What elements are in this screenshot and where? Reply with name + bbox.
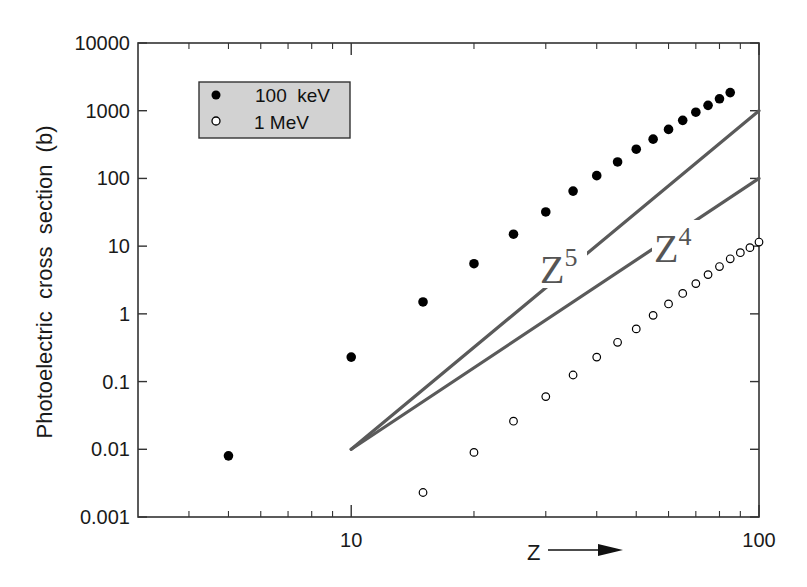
x-tick-label: 100 [742,529,775,551]
x-axis-arrow-icon [548,544,623,556]
data-point [679,290,687,298]
data-point [593,353,601,361]
x-tick-label: 10 [340,529,362,551]
legend-label-1mev: 1 MeV [254,112,309,133]
data-point [418,297,428,307]
y-tick-label: 10000 [74,32,130,54]
data-point [613,157,623,167]
x-axis-title: Z [527,540,540,565]
y-tick-label: 1 [119,303,130,325]
data-point [592,171,602,181]
data-point [346,352,356,362]
y-tick-label: 0.1 [102,371,130,393]
y-tick-label: 0.001 [80,506,130,528]
y-tick-label: 1000 [86,100,131,122]
data-point [715,94,725,104]
y-tick-label: 100 [97,167,130,189]
y-tick-label: 10 [108,235,130,257]
y-axis-title: Photoelectric cross section (b) [32,125,57,438]
data-point [469,259,479,269]
x-axis-ticks: 10100 [340,43,776,551]
data-point [569,371,577,379]
data-point [509,229,519,239]
photoelectric-cross-section-chart: 0.0010.010.1110100100010000 10100 Z5 Z4 … [0,0,807,587]
data-point [648,134,658,144]
data-point [665,300,673,308]
series-100kev-points [224,88,735,461]
legend: 100 keV 1 MeV [199,82,350,138]
data-point [746,244,754,252]
data-point [755,238,763,246]
data-point [726,255,734,263]
legend-marker-open-icon [212,117,220,125]
data-point [692,280,700,288]
reference-line-z4 [351,178,759,449]
y-tick-label: 0.01 [91,438,130,460]
data-point [632,325,640,333]
data-point [678,116,688,126]
data-point [541,207,551,217]
data-point [703,101,713,111]
y-axis-ticks: 0.0010.010.1110100100010000 [74,32,759,528]
data-point [704,271,712,279]
legend-label-100kev: 100 keV [255,85,330,106]
data-point [716,263,724,271]
data-point [664,125,674,135]
data-point [649,312,657,320]
data-point [470,449,478,457]
data-point [224,451,234,461]
data-point [419,489,427,497]
data-point [691,107,701,117]
series-1mev-points [419,238,763,496]
data-point [568,186,578,196]
data-point [614,339,622,347]
data-point [737,249,745,257]
data-point [542,393,550,401]
legend-marker-filled-icon [212,91,221,100]
data-point [725,88,735,98]
data-point [631,144,641,154]
data-point [510,417,518,425]
